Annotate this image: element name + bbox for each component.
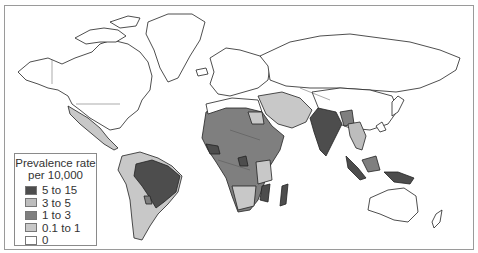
region-greenland — [146, 14, 205, 82]
legend-item: 0 — [25, 234, 96, 247]
region-india — [310, 108, 342, 156]
legend-item: 3 to 5 — [25, 197, 96, 210]
legend-label: 0.1 to 1 — [42, 222, 80, 234]
legend-title-line1: Prevalence rate — [15, 157, 96, 169]
legend-swatch — [25, 186, 37, 195]
legend-swatch — [25, 198, 37, 207]
region-new-zealand — [432, 210, 442, 228]
legend-title-line2: per 10,000 — [15, 169, 96, 181]
legend-list: 5 to 15 3 to 5 1 to 3 0.1 to 1 0 — [25, 184, 96, 247]
legend-label: 5 to 15 — [42, 184, 77, 196]
legend: Prevalence rate per 10,000 5 to 15 3 to … — [14, 153, 97, 246]
legend-label: 1 to 3 — [42, 209, 71, 221]
legend-label: 0 — [42, 234, 48, 246]
legend-item: 5 to 15 — [25, 184, 96, 197]
legend-item: 1 to 3 — [25, 209, 96, 222]
legend-swatch — [25, 223, 37, 232]
legend-title: Prevalence rate per 10,000 — [15, 157, 96, 181]
legend-item: 0.1 to 1 — [25, 222, 96, 235]
legend-swatch — [25, 236, 37, 245]
region-russia — [260, 34, 460, 92]
region-japan — [392, 96, 404, 116]
region-madagascar — [280, 184, 288, 206]
region-australia — [368, 188, 418, 222]
legend-swatch — [25, 211, 37, 220]
legend-label: 3 to 5 — [42, 197, 71, 209]
